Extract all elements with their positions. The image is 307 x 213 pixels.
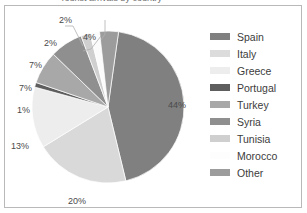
legend-label: Turkey (237, 99, 269, 111)
legend-swatch-icon-syria (210, 118, 230, 125)
chart-frame: 44% 20% 13% 1% 7% 7% 2% 2% 4% SpainItaly… (4, 5, 302, 208)
slice-label-portugal: 1% (17, 105, 30, 115)
legend-label: Syria (237, 116, 261, 128)
pie-slice-group (32, 31, 184, 183)
legend-label: Spain (237, 31, 264, 43)
legend-swatch-icon-italy (210, 50, 230, 57)
legend-item-italy[interactable]: Italy (210, 45, 302, 62)
legend-label: Italy (237, 48, 256, 60)
slice-label-italy: 20% (68, 196, 86, 206)
legend-item-syria[interactable]: Syria (210, 113, 302, 130)
legend-swatch-icon-turkey (210, 101, 230, 108)
legend-item-spain[interactable]: Spain (210, 28, 302, 45)
clipped-title-text: Tourist arrivals by country (60, 0, 162, 3)
slice-label-morocco: 2% (59, 15, 72, 25)
slice-label-spain: 44% (168, 100, 186, 110)
legend-item-turkey[interactable]: Turkey (210, 96, 302, 113)
legend-label: Tunisia (237, 133, 270, 145)
legend-item-portugal[interactable]: Portugal (210, 79, 302, 96)
pie-plot-area: 44% 20% 13% 1% 7% 7% 2% 2% 4% (5, 6, 205, 209)
legend-swatch-icon-other (210, 169, 230, 176)
legend-item-greece[interactable]: Greece (210, 62, 302, 79)
legend-swatch-icon-spain (210, 33, 230, 40)
slice-label-greece: 13% (11, 141, 29, 151)
slice-label-turkey: 7% (19, 83, 32, 93)
legend-item-morocco[interactable]: Morocco (210, 147, 302, 164)
legend-label: Morocco (237, 150, 277, 162)
legend-swatch-icon-tunisia (210, 135, 230, 142)
slice-label-tunisia: 2% (44, 38, 57, 48)
pie-chart-figure: Tourist arrivals by country 44% 20% 13% … (0, 0, 307, 213)
chart-legend: SpainItalyGreecePortugalTurkeySyriaTunis… (210, 28, 302, 181)
legend-item-other[interactable]: Other (210, 164, 302, 181)
slice-label-other: 4% (83, 32, 96, 42)
legend-item-tunisia[interactable]: Tunisia (210, 130, 302, 147)
legend-label: Other (237, 167, 263, 179)
legend-label: Portugal (237, 82, 276, 94)
legend-label: Greece (237, 65, 271, 77)
legend-swatch-icon-morocco (210, 152, 230, 159)
slice-label-syria: 7% (29, 60, 42, 70)
clipped-title-remnant: Tourist arrivals by country (0, 0, 307, 4)
legend-swatch-icon-portugal (210, 84, 230, 91)
legend-swatch-icon-greece (210, 67, 230, 74)
